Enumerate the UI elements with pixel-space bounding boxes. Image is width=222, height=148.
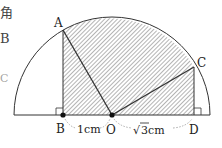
brace-BO <box>65 119 76 128</box>
cropped-text: 角 B C <box>0 5 13 85</box>
label-C: C <box>197 56 206 70</box>
shaded-region <box>63 18 194 115</box>
right-angle-mark-D <box>194 108 201 115</box>
radical-value: 3 <box>141 124 148 137</box>
point-B <box>60 112 65 117</box>
edge-char-3: C <box>0 72 8 85</box>
label-A: A <box>53 16 63 30</box>
label-B: B <box>56 122 65 136</box>
edge-char-1: 角 <box>0 5 13 20</box>
measure-unit: cm <box>148 124 165 137</box>
edge-char-2: B <box>0 31 10 46</box>
measure-BO: 1cm <box>77 123 101 136</box>
radical-sign: √ <box>133 124 141 137</box>
point-O <box>109 112 114 117</box>
label-D: D <box>189 123 199 137</box>
label-O: O <box>106 123 116 137</box>
measure-OD: √ 3 cm <box>133 123 165 137</box>
brace-OD <box>114 119 132 128</box>
geometry-figure: 角 B C A B O C D 1cm √ 3 cm <box>0 0 222 148</box>
